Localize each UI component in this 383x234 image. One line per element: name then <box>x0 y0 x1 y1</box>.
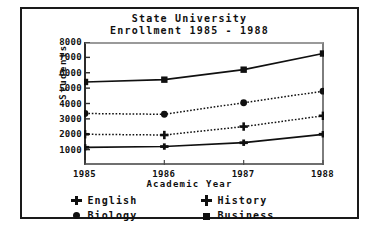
plus-marker-icon <box>71 195 82 206</box>
legend-row-top: English History <box>22 193 357 208</box>
legend-row-bottom: Biology Business <box>22 208 357 223</box>
dot-marker-icon <box>71 210 82 221</box>
x-tick-label: 1986 <box>152 169 175 179</box>
series-canvas <box>84 42 324 165</box>
y-tick-label: 6000 <box>59 69 82 78</box>
y-tick-label: 8000 <box>59 38 82 47</box>
legend-item-history: History <box>201 193 309 208</box>
y-tick-label: 2000 <box>59 130 82 139</box>
x-tick-label: 1987 <box>232 169 255 179</box>
y-tick-label: 1000 <box>59 146 82 155</box>
legend-label: History <box>218 195 268 206</box>
chart-title-block: State University Enrollment 1985 - 1988 <box>22 13 357 37</box>
y-axis-tick-labels: 80007000600050004000300020001000 <box>30 42 82 165</box>
x-tick-label: 1985 <box>73 169 96 179</box>
crosshair-marker-icon <box>201 195 212 206</box>
legend-label: English <box>88 195 138 206</box>
square-marker-icon <box>201 210 212 221</box>
plot-area <box>84 42 324 165</box>
legend-label: Business <box>218 210 275 221</box>
legend-item-business: Business <box>201 208 309 223</box>
chart-subtitle: Enrollment 1985 - 1988 <box>22 25 357 37</box>
legend-item-english: English <box>71 193 179 208</box>
x-axis-label: Academic Year <box>22 179 357 189</box>
chart-legend: English History Biology Business <box>22 193 357 223</box>
y-tick-label: 5000 <box>59 84 82 93</box>
y-tick-label: 3000 <box>59 115 82 124</box>
chart-frame: State University Enrollment 1985 - 1988 … <box>20 7 359 219</box>
chart-title: State University <box>22 13 357 25</box>
x-tick-label: 1988 <box>311 169 334 179</box>
legend-item-biology: Biology <box>71 208 179 223</box>
legend-label: Biology <box>88 210 138 221</box>
y-tick-label: 4000 <box>59 100 82 109</box>
y-tick-label: 7000 <box>59 53 82 62</box>
